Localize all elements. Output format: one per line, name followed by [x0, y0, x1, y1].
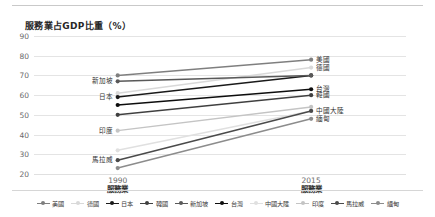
y-axis-tick: 20: [19, 170, 29, 179]
legend-marker-icon: [37, 200, 50, 207]
y-axis-tick: 80: [19, 51, 29, 60]
data-point-marker: [116, 79, 120, 83]
data-point-marker: [116, 148, 120, 152]
y-axis-tick: 90: [19, 32, 29, 41]
data-point-marker: [309, 105, 313, 109]
legend-marker-icon: [250, 200, 263, 207]
legend-marker-icon: [175, 200, 188, 207]
series-label-right: 德國: [316, 64, 330, 71]
legend-item[interactable]: 中國大陸: [250, 199, 290, 208]
series-line: [118, 119, 311, 168]
series-label-right: 美國: [316, 56, 330, 63]
data-point-marker: [309, 109, 313, 113]
x-axis-group: 1990服務業: [107, 176, 128, 196]
legend-label: 韓國: [156, 199, 168, 208]
y-axis-tick: 50: [19, 110, 29, 119]
series-label-left: 馬拉威: [92, 157, 113, 164]
legend-label: 美國: [52, 199, 64, 208]
data-point-marker: [116, 91, 120, 95]
series-label-left: 新加坡: [92, 78, 113, 85]
legend-item[interactable]: 印度: [296, 199, 324, 208]
x-axis-line: [34, 174, 406, 175]
top-divider: [12, 5, 423, 6]
legend-item[interactable]: 德國: [71, 199, 99, 208]
data-point-marker: [309, 117, 313, 121]
data-point-marker: [116, 166, 120, 170]
series-label-left: 印度: [99, 127, 113, 134]
legend-marker-icon: [331, 200, 344, 207]
legend-label: 馬拉威: [346, 199, 364, 208]
x-axis-year: 2015: [301, 176, 322, 185]
y-axis-tick: 60: [19, 91, 29, 100]
series-label-left: 日本: [99, 94, 113, 101]
x-axis-group: 2015服務業: [301, 176, 322, 196]
y-axis-tick: 70: [19, 71, 29, 80]
legend-label: 中國大陸: [265, 199, 289, 208]
legend-item[interactable]: 日本: [106, 199, 134, 208]
data-point-marker: [116, 158, 120, 162]
bottom-divider: [12, 190, 423, 191]
data-point-marker: [116, 73, 120, 77]
legend-label: 緬甸: [387, 199, 399, 208]
legend-item[interactable]: 台灣: [215, 199, 243, 208]
chart-legend: 美國德國日本韓國新加坡台灣中國大陸印度馬拉威緬甸: [12, 196, 423, 210]
data-point-marker: [309, 65, 313, 69]
data-point-marker: [309, 73, 313, 77]
series-label-right: 緬甸: [316, 116, 330, 123]
legend-marker-icon: [296, 200, 309, 207]
series-line: [118, 60, 311, 76]
series-line: [118, 111, 311, 150]
legend-marker-icon: [371, 200, 384, 207]
legend-item[interactable]: 美國: [37, 199, 65, 208]
series-line: [118, 89, 311, 105]
legend-item[interactable]: 馬拉威: [331, 199, 365, 208]
legend-label: 新加坡: [190, 199, 208, 208]
series-label-right: 台灣: [316, 86, 330, 93]
y-axis-tick: 30: [19, 150, 29, 159]
y-axis-tick: 40: [19, 130, 29, 139]
legend-marker-icon: [140, 200, 153, 207]
legend-label: 德國: [87, 199, 99, 208]
legend-label: 印度: [312, 199, 324, 208]
data-point-marker: [116, 113, 120, 117]
series-label-right: 中國大陸: [316, 108, 344, 115]
chart-container: 服務業占GDP比重（%） 9080706050403020 美國德國日本韓國新加…: [0, 0, 435, 217]
legend-item[interactable]: 緬甸: [371, 199, 399, 208]
chart-title: 服務業占GDP比重（%）: [25, 19, 131, 32]
data-point-marker: [116, 95, 120, 99]
data-point-marker: [116, 129, 120, 133]
legend-marker-icon: [106, 200, 119, 207]
legend-marker-icon: [215, 200, 228, 207]
data-point-marker: [309, 58, 313, 62]
plot-area: 9080706050403020 美國德國日本韓國新加坡台灣中國大陸印度馬拉威緬…: [34, 36, 406, 174]
data-point-marker: [309, 87, 313, 91]
legend-label: 台灣: [231, 199, 243, 208]
legend-label: 日本: [121, 199, 133, 208]
legend-item[interactable]: 新加坡: [175, 199, 209, 208]
legend-marker-icon: [71, 200, 84, 207]
data-point-marker: [309, 93, 313, 97]
legend-item[interactable]: 韓國: [140, 199, 168, 208]
series-lines: [34, 36, 406, 174]
data-point-marker: [116, 103, 120, 107]
series-line: [118, 95, 311, 115]
x-axis-year: 1990: [107, 176, 128, 185]
